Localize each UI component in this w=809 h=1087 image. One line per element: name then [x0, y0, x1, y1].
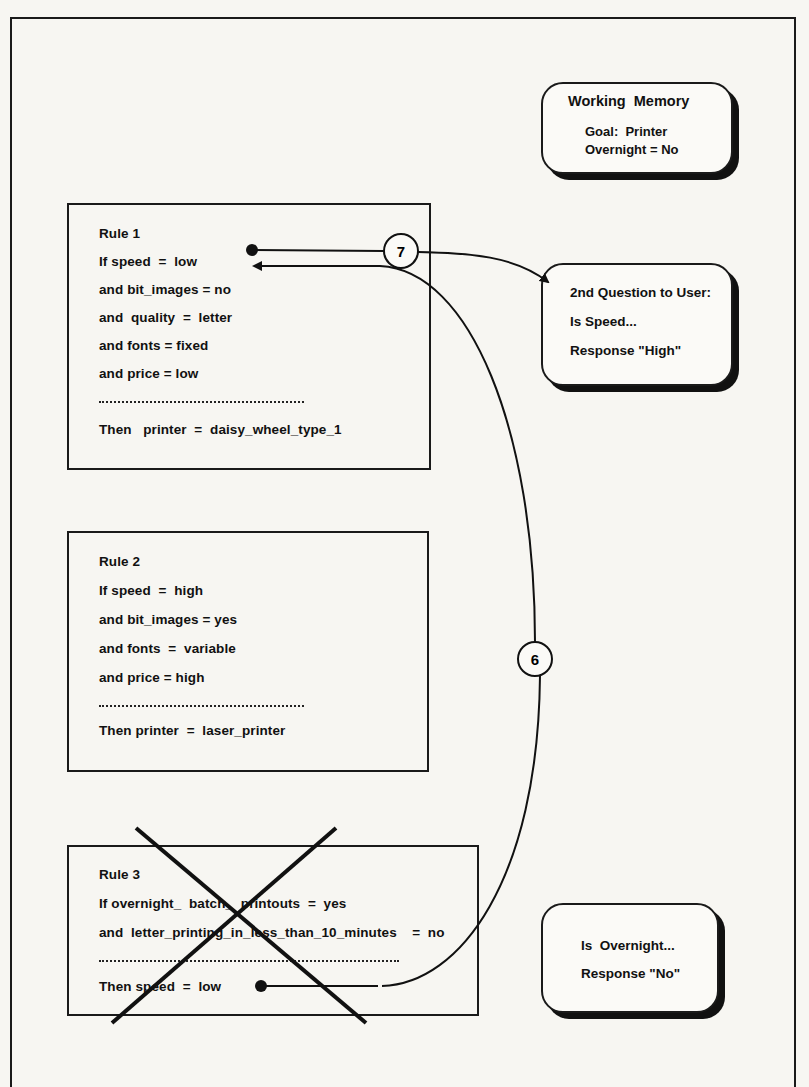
step-6-label: 6 — [531, 651, 539, 668]
step-6-connector — [254, 266, 552, 992]
rule-3-crossed-out-icon — [112, 828, 366, 1023]
step-7-label: 7 — [397, 243, 405, 260]
